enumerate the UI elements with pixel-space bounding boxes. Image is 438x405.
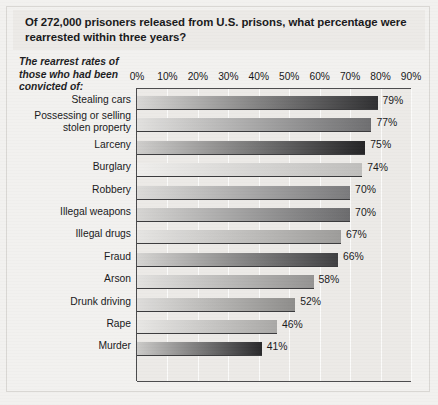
bar-row: Robbery70% <box>137 183 411 205</box>
category-label: Stealing cars <box>0 94 131 106</box>
x-tick-label: 60% <box>309 71 329 82</box>
bar <box>137 253 338 267</box>
chart-title: Of 272,000 prisoners released from U.S. … <box>25 15 421 44</box>
bar <box>137 163 362 177</box>
bar-row: Arson58% <box>137 272 411 294</box>
x-tick-label: 90% <box>401 71 421 82</box>
category-label: Illegal weapons <box>0 206 131 218</box>
bar-value-label: 66% <box>343 251 364 262</box>
gridline <box>411 89 412 381</box>
category-label: Drunk driving <box>0 296 131 308</box>
bar <box>137 320 277 334</box>
x-tick-label: 80% <box>370 71 390 82</box>
bar-value-label: 52% <box>300 296 321 307</box>
bar <box>137 141 365 155</box>
plot-area: 0%10%20%30%40%50%60%70%80%90% Stealing c… <box>137 89 411 381</box>
x-tick-label: 30% <box>218 71 238 82</box>
bar <box>137 96 378 110</box>
category-label: Arson <box>0 273 131 285</box>
bar <box>137 298 295 312</box>
bar-row: Possessing or selling stolen property77% <box>137 115 411 137</box>
bar-row: Larceny75% <box>137 138 411 160</box>
bar-row: Illegal weapons70% <box>137 205 411 227</box>
figure-border-bottom <box>6 391 430 392</box>
x-tick-label: 40% <box>249 71 269 82</box>
bar-value-label: 70% <box>355 184 376 195</box>
bar-row: Drunk driving52% <box>137 295 411 317</box>
bar-row: Stealing cars79% <box>137 93 411 115</box>
bar-value-label: 75% <box>370 139 391 150</box>
x-tick-label: 10% <box>157 71 177 82</box>
figure-border-right <box>429 6 430 392</box>
category-label: Burglary <box>0 161 131 173</box>
bar-value-label: 77% <box>376 117 397 128</box>
bar <box>137 118 371 132</box>
bar <box>137 230 341 244</box>
axis-top-line <box>137 88 411 89</box>
bar-row: Fraud66% <box>137 250 411 272</box>
bar <box>137 342 262 356</box>
bar-row: Murder41% <box>137 339 411 361</box>
x-tick-label: 50% <box>279 71 299 82</box>
bar-value-label: 67% <box>346 229 367 240</box>
category-label: Possessing or selling stolen property <box>0 110 131 133</box>
chart-subtitle: The rearrest rates of those who had been… <box>19 56 134 94</box>
axis-bottom-line <box>137 381 411 382</box>
category-label: Murder <box>0 340 131 352</box>
category-label: Robbery <box>0 184 131 196</box>
bar-value-label: 41% <box>267 341 288 352</box>
figure-border-top <box>6 6 430 7</box>
bar-value-label: 79% <box>383 95 404 106</box>
bar-value-label: 46% <box>282 319 303 330</box>
category-label: Fraud <box>0 251 131 263</box>
category-label: Rape <box>0 318 131 330</box>
category-label: Larceny <box>0 139 131 151</box>
x-tick-label: 0% <box>130 71 145 82</box>
bar-row: Illegal drugs67% <box>137 227 411 249</box>
x-tick-label: 70% <box>340 71 360 82</box>
category-label: Illegal drugs <box>0 228 131 240</box>
figure-border-left <box>6 6 7 392</box>
bar-value-label: 74% <box>367 162 388 173</box>
bar-value-label: 70% <box>355 207 376 218</box>
bar <box>137 275 314 289</box>
bar <box>137 186 350 200</box>
bar <box>137 208 350 222</box>
chart-figure: Of 272,000 prisoners released from U.S. … <box>0 0 438 405</box>
x-tick-label: 20% <box>188 71 208 82</box>
bar-row: Rape46% <box>137 317 411 339</box>
bar-row: Burglary74% <box>137 160 411 182</box>
bar-value-label: 58% <box>319 274 340 285</box>
